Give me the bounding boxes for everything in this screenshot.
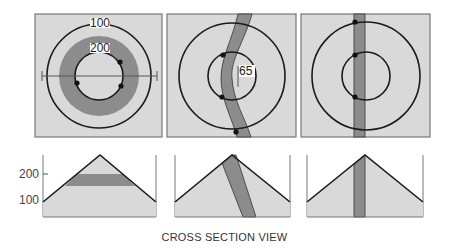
axis-label-200: 200 [19, 167, 39, 181]
contour-label-65: 65 [239, 64, 252, 78]
cross-section-dipping [175, 155, 290, 217]
contour-label-100: 100 [90, 16, 110, 30]
map-view-vertical [301, 14, 430, 137]
diagram-caption: CROSS SECTION VIEW [0, 231, 449, 243]
map-view-horizontal [35, 14, 162, 137]
cross-section-vertical [307, 155, 423, 217]
contour-label-200: 200 [90, 41, 110, 55]
cross-section-horizontal [43, 155, 156, 217]
geologic-diagram [0, 0, 449, 249]
axis-label-100: 100 [19, 193, 39, 207]
map-view-dipping [167, 14, 296, 137]
